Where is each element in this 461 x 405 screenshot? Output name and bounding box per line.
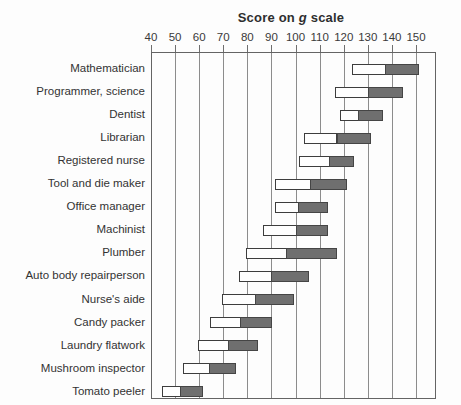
category-label: Machinist [0,222,145,236]
bar-upper-segment [286,248,338,259]
bar-upper-segment [209,363,237,374]
category-label: Mathematician [0,61,145,75]
x-tick-mark [320,45,321,52]
bar-lower-segment [352,64,386,75]
bar-upper-segment [228,340,258,351]
gridline [392,53,393,398]
bar-lower-segment [210,317,241,328]
chart-title: Score on g scale [148,10,434,25]
category-label: Librarian [0,130,145,144]
x-tick-mark [223,45,224,52]
bar-upper-segment [385,64,420,75]
x-tick-label: 150 [399,31,433,43]
chart-title-g-italic: g [299,10,307,25]
x-tick-mark [344,45,345,52]
bar-lower-segment [162,386,181,397]
category-label: Nurse's aide [0,292,145,306]
bar-upper-segment [296,225,328,236]
gridline [416,53,417,398]
bar-lower-segment [198,340,229,351]
bar-lower-segment [299,156,330,167]
bar-upper-segment [180,386,203,397]
bar-lower-segment [246,248,287,259]
x-tick-mark [175,45,176,52]
chart-title-post: scale [307,10,344,25]
x-tick-mark [199,45,200,52]
bar-lower-segment [222,294,256,305]
x-tick-mark [271,45,272,52]
x-tick-mark [247,45,248,52]
x-tick-mark [296,45,297,52]
bar-upper-segment [368,87,403,98]
bar-upper-segment [298,202,328,213]
bar-upper-segment [271,271,308,282]
gridline [175,53,176,398]
bar-upper-segment [329,156,354,167]
bar-lower-segment [304,133,338,144]
category-label: Laundry flatwork [0,338,145,352]
category-label: Plumber [0,245,145,259]
bar-lower-segment [275,202,299,213]
category-label: Tool and die maker [0,176,145,190]
bar-upper-segment [255,294,295,305]
x-tick-mark [151,45,152,52]
category-label: Tomato peeler [0,384,145,398]
x-tick-mark [368,45,369,52]
category-label: Registered nurse [0,153,145,167]
category-label: Candy packer [0,315,145,329]
bar-lower-segment [340,110,359,121]
bar-upper-segment [310,179,347,190]
bar-lower-segment [239,271,273,282]
bar-lower-segment [263,225,297,236]
category-label: Dentist [0,107,145,121]
chart-title-pre: Score on [238,10,299,25]
category-label: Programmer, science [0,84,145,98]
occupation-g-score-chart: Score on g scale 40506070809010011012013… [0,0,461,405]
bar-lower-segment [183,363,210,374]
x-tick-mark [416,45,417,52]
bar-upper-segment [240,317,272,328]
bar-lower-segment [275,179,311,190]
gridline [368,53,369,398]
bar-upper-segment [337,133,372,144]
bar-lower-segment [335,87,369,98]
bar-upper-segment [358,110,383,121]
gridline [344,53,345,398]
category-label: Office manager [0,199,145,213]
x-tick-mark [392,45,393,52]
category-label: Auto body repairperson [0,268,145,282]
plot-area [151,52,436,399]
category-label: Mushroom inspector [0,361,145,375]
